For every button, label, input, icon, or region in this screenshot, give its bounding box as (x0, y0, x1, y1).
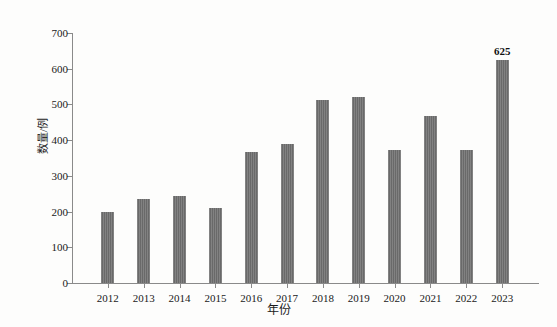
bar-value-label-2023: 625 (480, 44, 524, 58)
bar-chart-figure: 数量/例 0100200300400500600700 201220132014… (0, 0, 557, 327)
bar-2019 (352, 97, 365, 283)
bar-2023 (496, 60, 509, 283)
bar-2017 (281, 144, 294, 283)
y-axis-tick-label: 500 (52, 96, 69, 112)
x-axis-line (72, 283, 539, 284)
bar-2018 (316, 100, 329, 283)
y-axis-tick-label: 600 (52, 61, 69, 77)
x-axis-tick-mark (144, 284, 145, 288)
x-axis-tick-mark (287, 284, 288, 288)
x-axis-tick-mark (502, 284, 503, 288)
x-axis-tick-mark (215, 284, 216, 288)
x-axis-tick-mark (466, 284, 467, 288)
bar-2020 (388, 150, 401, 283)
y-axis-tick-label: 200 (52, 204, 69, 220)
bar-2015 (209, 208, 222, 283)
x-axis-title: 年份 (0, 300, 557, 318)
bar-2016 (245, 152, 258, 283)
y-axis-tick-label: 0 (63, 275, 69, 291)
x-axis-tick-mark (180, 284, 181, 288)
y-axis-tick-label: 700 (52, 25, 69, 41)
x-axis-tick-mark (323, 284, 324, 288)
x-axis-tick-mark (108, 284, 109, 288)
bar-2014 (173, 196, 186, 283)
y-axis-line (72, 33, 73, 284)
x-axis-tick-mark (359, 284, 360, 288)
x-axis-tick-mark (430, 284, 431, 288)
bar-2022 (460, 150, 473, 283)
x-axis-tick-mark (395, 284, 396, 288)
bar-2012 (101, 212, 114, 283)
y-axis-title: 数量/例 (34, 118, 50, 154)
y-axis-tick-label: 400 (52, 132, 69, 148)
y-axis-tick-label: 100 (52, 239, 69, 255)
y-axis-tick-label: 300 (52, 168, 69, 184)
plot-area: 0100200300400500600700 20122013201420152… (72, 33, 538, 283)
bar-2013 (137, 199, 150, 283)
x-axis-tick-mark (251, 284, 252, 288)
bar-2021 (424, 116, 437, 283)
